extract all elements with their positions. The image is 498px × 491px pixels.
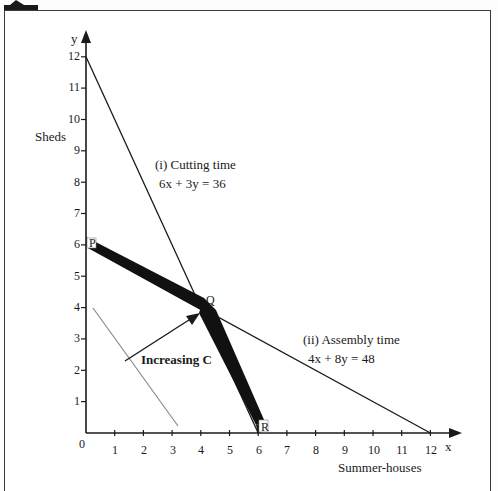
x-tick-label: 9 — [335, 444, 355, 456]
point-r-label: R — [261, 421, 269, 433]
y-axis-arrow-icon — [81, 30, 91, 43]
increasing-c-label: Increasing C — [141, 353, 212, 366]
y-tick-label: 5 — [60, 270, 80, 282]
y-axis-symbol: y — [71, 32, 78, 45]
cutting-time-title: (i) Cutting time — [155, 158, 236, 171]
y-tick-label: 6 — [60, 238, 80, 250]
x-tick-label: 2 — [134, 444, 154, 456]
point-q-label: Q — [206, 294, 215, 306]
iso-cost-line — [93, 308, 178, 426]
x-tick-label: 7 — [277, 444, 297, 456]
y-tick-label: 9 — [60, 144, 80, 156]
point-p-label: P — [89, 237, 96, 249]
y-tick-label: 2 — [60, 364, 80, 376]
y-tick-label: 4 — [60, 301, 80, 313]
x-tick-label: 5 — [220, 444, 240, 456]
x-tick-label: 6 — [249, 444, 269, 456]
y-tick-label: 1 — [60, 395, 80, 407]
x-axis-symbol: x — [445, 440, 452, 453]
x-tick-label: 4 — [191, 444, 211, 456]
assembly-time-title: (ii) Assembly time — [303, 333, 400, 346]
assembly-time-equation: 4x + 8y = 48 — [308, 352, 375, 365]
x-tick-label: 8 — [306, 444, 326, 456]
page: y x Sheds Summer-houses 0 1 2 3 4 5 6 7 … — [0, 0, 498, 491]
y-axis-title: Sheds — [35, 130, 66, 143]
y-tick-label: 7 — [60, 207, 80, 219]
y-tick-label: 12 — [60, 50, 80, 62]
x-axis-arrow-icon — [449, 428, 462, 438]
y-tick-label: 11 — [60, 81, 80, 93]
origin-label: 0 — [72, 438, 92, 450]
x-tick-label: 3 — [163, 444, 183, 456]
y-tick-label: 10 — [60, 113, 80, 125]
x-tick-label: 11 — [392, 444, 412, 456]
arrow-head-icon — [186, 313, 200, 325]
x-tick-label: 10 — [364, 444, 384, 456]
y-tick-label: 3 — [60, 332, 80, 344]
x-axis-title: Summer-houses — [338, 461, 422, 474]
x-tick-label: 1 — [105, 444, 125, 456]
cutting-time-equation: 6x + 3y = 36 — [159, 177, 226, 190]
y-tick-label: 8 — [60, 176, 80, 188]
x-tick-label: 12 — [421, 444, 441, 456]
